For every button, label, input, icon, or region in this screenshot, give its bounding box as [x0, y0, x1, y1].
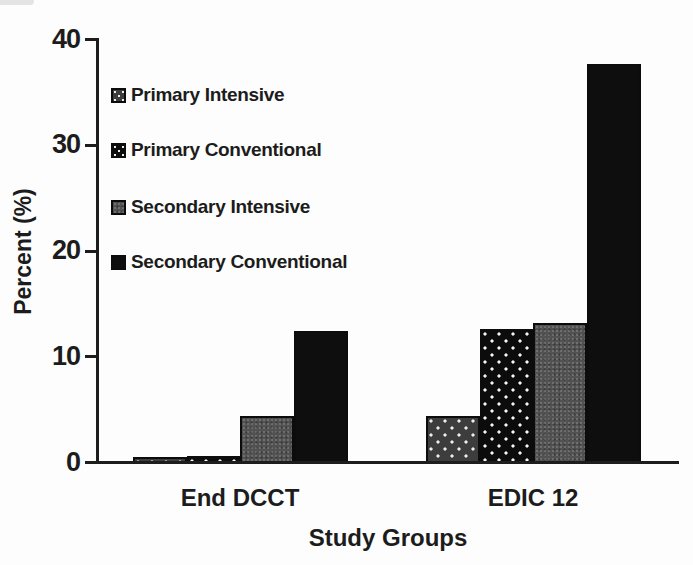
y-tick-label-20: 20 [30, 237, 80, 264]
bar-edic-12-secondary-intensive [533, 323, 587, 463]
bar-end-dcct-secondary-intensive [240, 416, 294, 463]
y-tick-mark-20 [85, 250, 97, 253]
y-tick-mark-10 [85, 355, 97, 358]
legend-item-secondary-conventional: Secondary Conventional [111, 251, 347, 273]
x-category-label-end-dcct: End DCCT [130, 484, 350, 512]
bar-edic-12-primary-conventional [480, 329, 534, 463]
y-tick-label-40: 40 [30, 26, 80, 53]
bar-edic-12-primary-intensive [426, 416, 480, 463]
x-category-label-edic-12: EDIC 12 [423, 484, 643, 512]
legend-swatch-pi-icon [111, 88, 126, 103]
legend-label: Primary Intensive [131, 84, 284, 106]
legend-label: Secondary Intensive [131, 196, 310, 218]
y-tick-mark-40 [85, 38, 97, 41]
legend-swatch-si-icon [111, 200, 126, 215]
legend-item-secondary-intensive: Secondary Intensive [111, 196, 310, 218]
bar-edic-12-secondary-conventional [587, 64, 641, 463]
y-tick-label-0: 0 [30, 449, 80, 476]
legend-item-primary-conventional: Primary Conventional [111, 139, 321, 161]
legend-swatch-pc-icon [111, 143, 126, 158]
legend-swatch-sc-icon [111, 255, 126, 270]
legend-label: Primary Conventional [131, 139, 321, 161]
x-axis-title: Study Groups [258, 524, 518, 552]
legend-label: Secondary Conventional [131, 251, 347, 273]
x-axis-line [96, 461, 679, 464]
y-tick-mark-30 [85, 144, 97, 147]
bar-chart-figure: Percent (%) 010203040 End DCCTEDIC 12 St… [0, 0, 693, 565]
y-tick-label-10: 10 [30, 343, 80, 370]
legend-item-primary-intensive: Primary Intensive [111, 84, 284, 106]
y-tick-label-30: 30 [30, 131, 80, 158]
scan-artifact-smudge [0, 0, 34, 5]
bar-end-dcct-secondary-conventional [294, 331, 348, 463]
